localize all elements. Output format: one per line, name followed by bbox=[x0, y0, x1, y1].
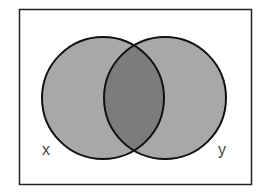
venn-diagram: x y bbox=[0, 0, 260, 195]
set-x-label: x bbox=[42, 141, 50, 158]
set-y-label: y bbox=[218, 141, 226, 158]
